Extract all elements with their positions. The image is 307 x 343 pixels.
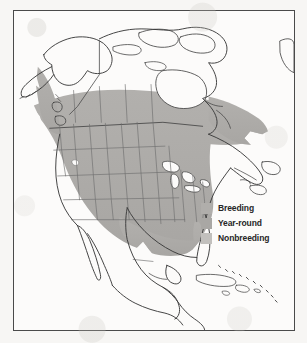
great-salt-lake (72, 160, 79, 166)
legend-item-breeding[interactable]: Breeding (201, 201, 295, 216)
legend-label-year-round: Year-round (218, 219, 262, 228)
legend-label-nonbreeding: Nonbreeding (218, 234, 269, 243)
color-swatch-icon (201, 218, 212, 229)
color-swatch-icon (201, 233, 212, 244)
north-america-map (14, 11, 294, 330)
map-legend: Breeding Year-round Nonbreeding (201, 201, 295, 246)
legend-item-year-round[interactable]: Year-round (201, 216, 295, 231)
legend-label-breeding: Breeding (218, 204, 254, 213)
color-swatch-icon (201, 203, 212, 214)
map-frame: Breeding Year-round Nonbreeding (13, 10, 295, 331)
legend-item-nonbreeding[interactable]: Nonbreeding (201, 231, 295, 246)
range-map-page: Breeding Year-round Nonbreeding (0, 0, 307, 343)
